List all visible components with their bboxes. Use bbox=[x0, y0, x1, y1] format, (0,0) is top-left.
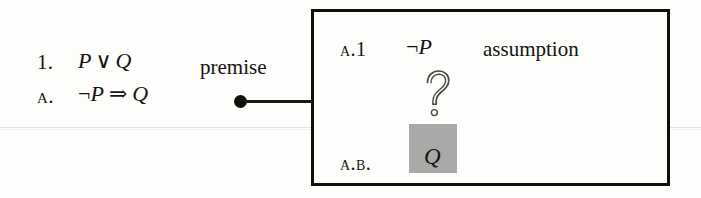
derivation-line-a-number: A. bbox=[37, 86, 54, 107]
subproof-box: A.1 ¬P assumption A.B. Q bbox=[311, 9, 670, 186]
subproof-line-1-number: A.1 bbox=[340, 39, 366, 59]
derivation-line-1-justification: premise bbox=[200, 57, 266, 78]
formula-left: P bbox=[78, 48, 91, 73]
formula-left-atom: P bbox=[90, 81, 103, 106]
negation-symbol: ¬ bbox=[78, 81, 90, 106]
figure-canvas: 1. P∨Q premise A. ¬P⇒Q A.1 ¬P assumption… bbox=[0, 0, 701, 198]
subproof-line-2-formula: Q bbox=[424, 145, 441, 168]
derivation-line-1-formula: P∨Q bbox=[78, 50, 131, 72]
subproof-line-2-number: A.B. bbox=[340, 153, 371, 173]
derivation-line-1-number: 1. bbox=[37, 52, 53, 73]
negation-symbol: ¬ bbox=[406, 34, 418, 59]
formula-operator: ∨ bbox=[95, 48, 111, 73]
formula-right: Q bbox=[116, 48, 132, 73]
question-mark-icon bbox=[419, 68, 455, 120]
subproof-connector-line bbox=[245, 100, 312, 103]
formula-atom: P bbox=[418, 34, 431, 59]
formula-operator: ⇒ bbox=[109, 81, 127, 106]
subproof-line-1-formula: ¬P bbox=[406, 36, 432, 58]
derivation-line-a-formula: ¬P⇒Q bbox=[78, 83, 148, 105]
subproof-line-1-justification: assumption bbox=[483, 39, 579, 60]
formula-right: Q bbox=[132, 81, 148, 106]
